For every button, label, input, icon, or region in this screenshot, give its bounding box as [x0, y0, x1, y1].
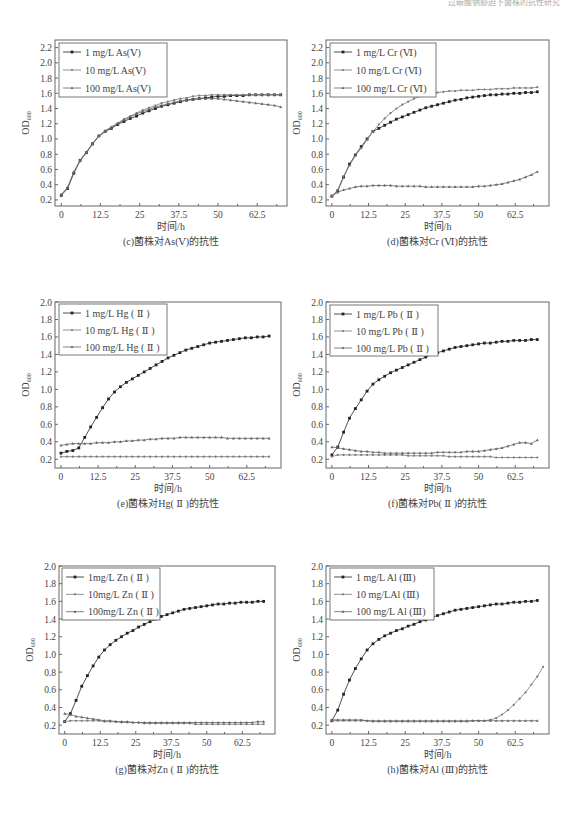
y-tick-label: 1.4: [44, 615, 56, 625]
x-tick-label: 0: [329, 738, 334, 748]
figure-caption-d: (d)菌株对Cr (Ⅵ)的抗性: [316, 233, 559, 248]
x-tick-label: 0: [62, 738, 67, 748]
x-tick-label: 50: [474, 472, 484, 482]
y-tick-label: 1.8: [311, 74, 323, 84]
legend-entry: 10 mg/L Hg ( Ⅱ ): [85, 325, 154, 337]
y-tick-label: 0.2: [40, 195, 52, 205]
x-tick-label: 25: [400, 472, 410, 482]
x-axis-label: 时间/h: [424, 482, 452, 494]
y-tick-label: 1.8: [44, 579, 56, 589]
legend-entry: 100 mg/L As(Ⅴ): [85, 83, 151, 95]
x-axis-label: 时间/h: [157, 220, 185, 232]
x-tick-label: 50: [205, 472, 215, 482]
y-tick-label: 0.4: [311, 437, 323, 447]
y-tick-label: 0.2: [311, 721, 323, 731]
y-tick-label: 0.6: [40, 420, 52, 430]
legend-entry: 10 mg/L As(Ⅴ): [85, 65, 146, 77]
y-tick-label: 1.0: [40, 385, 52, 395]
chart-panel-c: 0.20.40.60.81.01.21.41.61.82.02.2012.525…: [20, 40, 287, 232]
x-tick-label: 0: [329, 472, 334, 482]
y-tick-label: 0.8: [40, 150, 52, 160]
y-tick-label: 0.6: [44, 685, 56, 695]
y-tick-label: 2.0: [40, 298, 52, 308]
x-tick-label: 12.5: [360, 210, 377, 220]
legend: 1 mg/L Hg ( Ⅱ )10 mg/L Hg ( Ⅱ )100 mg/L …: [59, 304, 167, 355]
y-tick-label: 1.4: [40, 104, 52, 114]
x-tick-label: 12.5: [92, 210, 109, 220]
y-axis-label: OD600: [291, 373, 303, 396]
series-3: [63, 712, 265, 724]
legend-entry: 100 mg/L Al (Ⅲ): [356, 606, 426, 618]
y-tick-label: 1.4: [40, 350, 52, 360]
y-tick-label: 0.2: [311, 455, 323, 465]
y-tick-label: 1.6: [40, 332, 52, 342]
y-tick-label: 0.2: [311, 195, 323, 205]
x-tick-label: 12.5: [90, 472, 107, 482]
x-tick-label: 37.5: [163, 738, 180, 748]
legend-entry: 10 mg/LAl (Ⅲ): [356, 589, 419, 601]
x-tick-label: 25: [131, 472, 141, 482]
y-tick-label: 2.0: [311, 298, 323, 308]
y-axis-label: OD600: [24, 638, 36, 661]
chart-panel-h: 0.20.40.60.81.01.21.41.61.82.0012.52537.…: [291, 562, 549, 761]
y-tick-label: 0.4: [311, 703, 323, 713]
x-tick-label: 0: [59, 472, 64, 482]
x-tick-label: 37.5: [434, 738, 451, 748]
chart-panel-d: 0.20.40.60.81.01.21.41.61.82.02.2012.525…: [291, 40, 549, 232]
series-3: [59, 436, 270, 447]
series-2: [331, 454, 539, 459]
y-tick-label: 2.0: [44, 562, 56, 572]
x-tick-label: 25: [135, 210, 145, 220]
y-tick-label: 1.6: [311, 332, 323, 342]
x-tick-label: 50: [202, 738, 212, 748]
y-tick-label: 1.0: [40, 134, 52, 144]
x-tick-label: 50: [474, 738, 484, 748]
x-tick-label: 50: [213, 210, 223, 220]
x-axis-label: 时间/h: [424, 748, 452, 760]
y-tick-label: 1.8: [311, 579, 323, 589]
y-tick-label: 1.6: [40, 89, 52, 99]
y-tick-label: 0.8: [44, 668, 56, 678]
y-tick-label: 1.2: [311, 367, 323, 377]
y-tick-label: 0.4: [40, 180, 52, 190]
chart-panel-e: 0.20.40.60.81.01.21.41.61.82.0012.52537.…: [20, 298, 281, 495]
y-tick-label: 0.2: [40, 455, 52, 465]
legend: 1mg/L Zn ( Ⅱ )10mg/L Zn ( Ⅱ )100mg/L Zn …: [62, 568, 160, 620]
y-tick-label: 1.8: [40, 74, 52, 84]
y-tick-label: 1.2: [311, 119, 323, 129]
figure-caption-c: (c)菌株对As(Ⅴ)的抗性: [45, 233, 297, 248]
y-tick-label: 1.4: [311, 615, 323, 625]
y-tick-label: 1.6: [311, 597, 323, 607]
y-tick-label: 2.0: [311, 562, 323, 572]
y-tick-label: 0.2: [44, 721, 56, 731]
x-tick-label: 50: [474, 210, 484, 220]
y-tick-label: 0.4: [40, 437, 52, 447]
y-tick-label: 0.8: [40, 402, 52, 412]
x-tick-label: 62.5: [234, 738, 251, 748]
legend-entry: 10 mg/L Cr (Ⅵ): [356, 65, 422, 77]
x-tick-label: 25: [400, 210, 410, 220]
y-tick-label: 0.8: [311, 150, 323, 160]
x-tick-label: 25: [400, 738, 410, 748]
series-3: [60, 97, 282, 196]
figure-caption-f: (f)菌株对Pb( Ⅱ )的抗性: [316, 495, 559, 510]
legend-entry: 100 mg/L Hg ( Ⅱ ): [85, 342, 159, 354]
legend: 1 mg/L As(Ⅴ)10 mg/L As(Ⅴ)100 mg/L As(Ⅴ): [59, 43, 167, 97]
x-tick-label: 62.5: [249, 210, 266, 220]
x-tick-label: 37.5: [434, 472, 451, 482]
y-tick-label: 1.4: [311, 350, 323, 360]
y-tick-label: 2.0: [40, 58, 52, 68]
x-tick-label: 62.5: [507, 472, 524, 482]
legend-entry: 100 mg/L Cr (Ⅵ): [356, 83, 427, 95]
x-axis-label: 时间/h: [154, 482, 182, 494]
y-axis-label: OD600: [20, 111, 32, 134]
y-tick-label: 1.0: [311, 134, 323, 144]
y-tick-label: 2.0: [311, 58, 323, 68]
y-tick-label: 1.4: [311, 104, 323, 114]
legend-entry: 1 mg/L As(Ⅴ): [85, 47, 141, 59]
legend-entry: 1 mg/L Cr (Ⅵ): [356, 47, 417, 59]
legend-entry: 1 mg/L Pb ( Ⅱ ): [356, 309, 419, 321]
x-tick-label: 62.5: [507, 738, 524, 748]
x-tick-label: 12.5: [360, 472, 377, 482]
x-tick-label: 37.5: [164, 472, 181, 482]
